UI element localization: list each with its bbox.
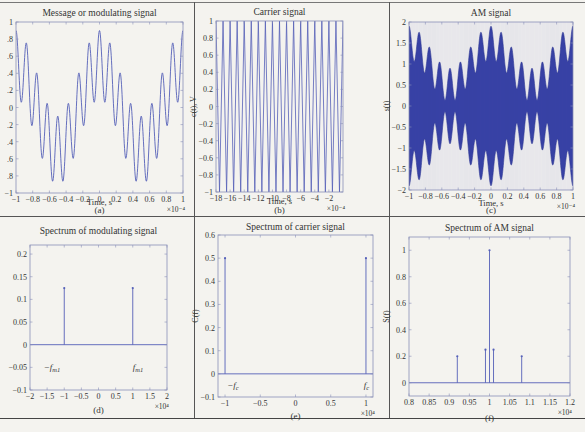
y-tick-label: 0.2 bbox=[396, 352, 406, 361]
y-tick-label: 1 bbox=[9, 18, 13, 27]
y-tick-label: 1 bbox=[402, 246, 406, 255]
chart-title: Carrier signal bbox=[254, 7, 306, 17]
x-tick-label: 0 bbox=[294, 399, 298, 408]
y-tick-label: −0.1 bbox=[200, 393, 215, 402]
x-tick-label: −0.8 bbox=[418, 192, 433, 201]
x-tick-label: 0.95 bbox=[462, 398, 476, 407]
y-tick-label: 1 bbox=[209, 17, 213, 26]
x-axis-multiplier: ×10⁻⁴ bbox=[557, 202, 576, 211]
x-tick-label: 1 bbox=[571, 192, 575, 201]
y-tick-label: .2 bbox=[7, 121, 13, 130]
panel-spectrum-carrier: Spectrum of carrier signal−fcfc−1−0.500.… bbox=[191, 222, 375, 421]
x-tick-label: 1.2 bbox=[565, 398, 575, 407]
y-tick-label: 0.4 bbox=[205, 277, 215, 286]
x-tick-label: −4 bbox=[311, 194, 320, 203]
panel-message-signal: Message or modulating signal−1−0.8−0.6−0… bbox=[4, 8, 185, 215]
y-tick-label: .6 bbox=[7, 52, 13, 61]
stem-marker bbox=[492, 349, 494, 351]
x-tick-label: 0.8 bbox=[404, 398, 414, 407]
x-tick-label: −2 bbox=[26, 392, 35, 401]
plot-data bbox=[409, 249, 570, 383]
chart-title: Spectrum of AM signal bbox=[445, 223, 534, 233]
x-tick-label: 1 bbox=[488, 398, 492, 407]
x-tick-label: −1.5 bbox=[40, 392, 55, 401]
panel-caption: (e) bbox=[291, 411, 301, 421]
x-tick-label: 1.5 bbox=[145, 392, 155, 401]
x-axis-multiplier: ×10⁴ bbox=[361, 409, 376, 418]
x-tick-label: −0.4 bbox=[451, 192, 466, 201]
panel-caption: (c) bbox=[486, 205, 496, 215]
panel-carrier-signal: Carrier signal−18−16−14−12−10−8−6−4−2−1−… bbox=[189, 7, 345, 215]
y-tick-label: −0.8 bbox=[198, 171, 213, 180]
x-tick-label: −1 bbox=[405, 192, 414, 201]
chart-title: Spectrum of carrier signal bbox=[246, 222, 345, 232]
plot-data bbox=[30, 287, 167, 345]
x-tick-label: 1.1 bbox=[525, 398, 535, 407]
x-tick-label: −1 bbox=[60, 392, 69, 401]
y-tick-label: 0.4 bbox=[396, 326, 406, 335]
figure-canvas: Message or modulating signal−1−0.8−0.6−0… bbox=[0, 0, 585, 432]
x-tick-label: 0.9 bbox=[444, 398, 454, 407]
x-tick-label: −0.4 bbox=[59, 195, 74, 204]
y-tick-label: 0.8 bbox=[203, 34, 213, 43]
plot-data bbox=[16, 31, 183, 182]
x-tick-label: 1.05 bbox=[503, 398, 517, 407]
x-axis-multiplier: ×10⁴ bbox=[155, 402, 170, 411]
x-tick-label: −1 bbox=[221, 399, 230, 408]
stem-marker bbox=[484, 349, 486, 351]
x-tick-label: 1.15 bbox=[543, 398, 557, 407]
panel-spectrum-am: Spectrum of AM signal0.80.850.90.9511.05… bbox=[382, 223, 575, 423]
y-tick-label: −1 bbox=[204, 188, 213, 197]
x-axis-multiplier: ×10⁴ bbox=[558, 408, 573, 417]
chart-title: Spectrum of modulating signal bbox=[40, 226, 158, 236]
x-tick-label: 0.8 bbox=[552, 192, 562, 201]
y-tick-label: 1 bbox=[402, 60, 406, 69]
y-axis-label: c(t), V bbox=[189, 96, 198, 117]
x-tick-label: −2 bbox=[325, 194, 334, 203]
y-tick-label: 0.4 bbox=[203, 68, 213, 77]
y-tick-label: 0 bbox=[9, 104, 13, 113]
panel-caption: (a) bbox=[95, 205, 105, 215]
y-tick-label: 0.2 bbox=[203, 85, 213, 94]
y-tick-label: 0.3 bbox=[205, 300, 215, 309]
x-tick-label: 0.5 bbox=[326, 399, 336, 408]
x-tick-label: 2 bbox=[165, 392, 169, 401]
stem-marker bbox=[132, 287, 134, 289]
axes-frame bbox=[16, 22, 183, 193]
frequency-annotation: fm1 bbox=[133, 362, 143, 373]
panel-caption: (d) bbox=[93, 405, 104, 415]
x-tick-label: 1 bbox=[364, 399, 368, 408]
y-tick-label: 0.15 bbox=[13, 273, 27, 282]
y-tick-label: 2 bbox=[402, 18, 406, 27]
y-tick-label: .4 bbox=[7, 69, 13, 78]
y-tick-label: 0 bbox=[23, 341, 27, 350]
y-tick-label: −1 bbox=[397, 144, 406, 153]
x-tick-label: −0.5 bbox=[74, 392, 89, 401]
y-tick-label: 0.2 bbox=[17, 250, 27, 259]
y-tick-label: 0.1 bbox=[17, 295, 27, 304]
y-tick-label: −0.6 bbox=[198, 154, 213, 163]
x-tick-label: 1 bbox=[181, 195, 185, 204]
x-tick-label: −12 bbox=[252, 194, 265, 203]
y-tick-label: 0.5 bbox=[205, 254, 215, 263]
stem-marker bbox=[63, 287, 65, 289]
stem-marker bbox=[488, 249, 490, 251]
y-tick-label: 0.6 bbox=[205, 231, 215, 240]
y-tick-label: 0.6 bbox=[203, 51, 213, 60]
y-tick-label: 0.5 bbox=[396, 81, 406, 90]
y-tick-label: 1.5 bbox=[396, 39, 406, 48]
y-tick-label: 0.1 bbox=[205, 347, 215, 356]
y-tick-label: −0.1 bbox=[12, 386, 27, 395]
frequency-annotation: −fc bbox=[227, 380, 239, 391]
x-tick-label: −0.6 bbox=[42, 195, 57, 204]
plot-data bbox=[216, 21, 343, 192]
y-axis-label: s(t) bbox=[382, 100, 391, 111]
y-tick-label: 0 bbox=[209, 103, 213, 112]
axes-frame bbox=[218, 235, 373, 397]
x-tick-label: 0.6 bbox=[145, 195, 155, 204]
y-tick-label: −1 bbox=[4, 189, 13, 198]
y-tick-label: .2 bbox=[7, 86, 13, 95]
x-tick-label: −0.6 bbox=[435, 192, 450, 201]
stem-marker bbox=[456, 355, 458, 357]
y-tick-label: −1.5 bbox=[391, 165, 406, 174]
